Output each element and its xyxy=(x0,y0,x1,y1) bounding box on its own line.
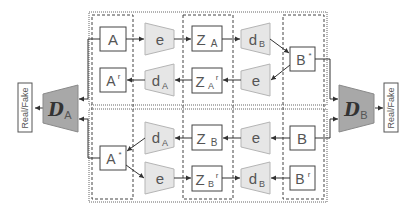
svg-text:A: A xyxy=(211,38,218,49)
svg-text:B: B xyxy=(360,109,367,121)
svg-text:r: r xyxy=(308,170,311,179)
svg-text:D: D xyxy=(47,99,64,120)
svg-text:d: d xyxy=(249,31,257,48)
node-b: B xyxy=(290,126,315,150)
svg-text:B: B xyxy=(296,52,305,68)
node-b-star: B * xyxy=(290,47,315,71)
svg-text:B: B xyxy=(211,137,218,148)
svg-text:d: d xyxy=(152,129,160,146)
encoder-e-bottom: e xyxy=(241,122,270,154)
svg-text:e: e xyxy=(156,170,164,187)
svg-text:*: * xyxy=(308,51,311,60)
svg-text:Z: Z xyxy=(195,73,204,90)
svg-text:A: A xyxy=(208,81,214,91)
svg-text:Z: Z xyxy=(195,171,204,188)
svg-text:A: A xyxy=(162,81,168,91)
node-a: A xyxy=(100,27,126,51)
svg-text:A: A xyxy=(64,109,72,121)
svg-text:A: A xyxy=(108,31,118,48)
svg-text:r: r xyxy=(216,171,219,180)
svg-text:A: A xyxy=(162,138,168,148)
real-fake-output-b: Real/Fake xyxy=(384,83,398,132)
svg-text:A: A xyxy=(106,151,116,167)
svg-text:*: * xyxy=(118,150,121,159)
node-b-recon: B r xyxy=(290,166,315,190)
node-a-star: A * xyxy=(100,146,126,170)
svg-text:d: d xyxy=(152,72,160,89)
discriminator-d-a: D A xyxy=(43,85,78,132)
svg-text:B: B xyxy=(208,179,214,189)
svg-text:B: B xyxy=(259,179,265,189)
svg-text:r: r xyxy=(118,72,121,81)
svg-text:Z: Z xyxy=(196,130,205,147)
svg-text:d: d xyxy=(249,170,257,187)
svg-text:B: B xyxy=(259,39,265,49)
svg-text:r: r xyxy=(216,73,219,82)
svg-text:B: B xyxy=(297,130,307,147)
svg-text:Z: Z xyxy=(196,31,205,48)
real-fake-output-a: Real/Fake xyxy=(18,83,32,132)
svg-text:e: e xyxy=(252,129,260,146)
svg-text:A: A xyxy=(106,73,116,89)
decoder-d-a-top: d A xyxy=(145,64,174,96)
cyclegan-architecture-diagram: A e Z A d B B * A r d A Z A r e xyxy=(0,0,415,219)
svg-text:Real/Fake: Real/Fake xyxy=(20,87,30,128)
node-a-recon: A r xyxy=(100,68,126,92)
discriminator-d-b: D B xyxy=(339,85,374,132)
node-z-b-recon: Z B r xyxy=(192,166,222,191)
svg-text:e: e xyxy=(252,72,260,89)
svg-text:B: B xyxy=(295,171,304,187)
encoder-e-bottom-recon: e xyxy=(145,162,174,194)
svg-text:Real/Fake: Real/Fake xyxy=(386,87,396,128)
decoder-d-a-bottom: d A xyxy=(145,122,174,154)
encoder-e-top-recon: e xyxy=(241,64,270,96)
svg-text:e: e xyxy=(156,31,164,48)
svg-text:D: D xyxy=(343,99,360,120)
encoder-e-top: e xyxy=(145,23,174,55)
node-z-b: Z B xyxy=(192,125,222,150)
decoder-d-b-bottom: d B xyxy=(241,162,270,194)
decoder-d-b-top: d B xyxy=(241,23,270,55)
node-z-a-recon: Z A r xyxy=(192,68,222,93)
node-z-a: Z A xyxy=(192,26,222,51)
